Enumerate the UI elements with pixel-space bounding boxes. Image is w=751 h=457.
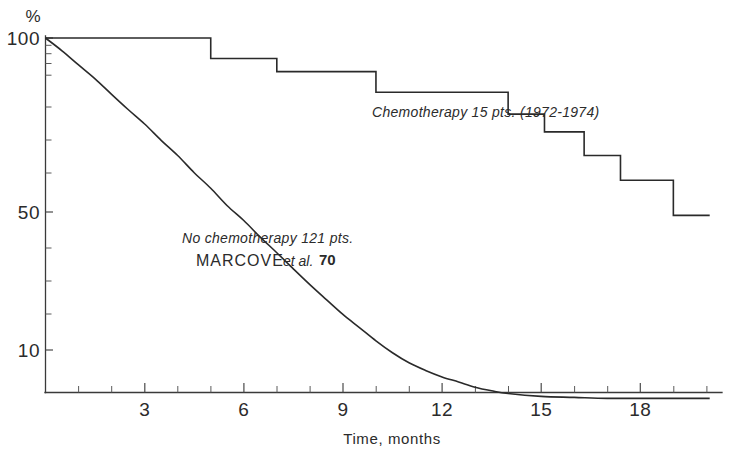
y-tick-label-10: 10 — [18, 340, 40, 361]
axis-group — [45, 36, 722, 393]
chart-svg: % 100 50 10 — [0, 0, 751, 457]
x-tick-label-9: 9 — [337, 399, 348, 420]
y-axis-ticks — [46, 38, 54, 350]
annotation-source-author: MARCOVE — [196, 252, 284, 269]
y-tick-label-50: 50 — [18, 202, 40, 223]
x-tick-label-15: 15 — [530, 399, 552, 420]
x-tick-label-12: 12 — [431, 399, 453, 420]
annotation-chemotherapy-label: Chemotherapy 15 pts. (1972-1974) — [372, 104, 600, 120]
series-chemotherapy-step-curve — [46, 38, 710, 215]
x-tick-label-18: 18 — [629, 399, 651, 420]
y-tick-label-100: 100 — [7, 28, 40, 49]
x-tick-label-6: 6 — [238, 399, 249, 420]
annotation-source-reference-number: 70 — [319, 251, 336, 268]
annotation-no-chemotherapy-label: No chemotherapy 121 pts. — [182, 230, 353, 246]
survival-curve-figure: % 100 50 10 — [0, 0, 751, 457]
x-axis-title: Time, months — [343, 430, 441, 447]
annotation-source-etal: et al. — [283, 253, 313, 269]
x-axis-ticks — [79, 383, 707, 393]
y-axis-unit-label: % — [25, 7, 40, 26]
x-tick-label-3: 3 — [139, 399, 150, 420]
